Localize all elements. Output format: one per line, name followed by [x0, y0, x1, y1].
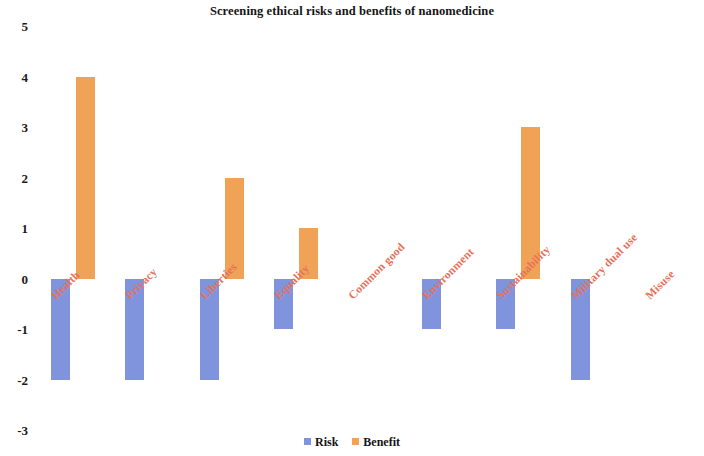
legend-swatch-icon	[352, 438, 359, 445]
chart-title: Screening ethical risks and benefits of …	[0, 4, 704, 19]
y-tick-label: 3	[22, 121, 29, 134]
y-axis: 543210-1-2-3	[0, 26, 34, 430]
plot-area: HealthPrivacyLibertiesEqualityCommon goo…	[36, 26, 704, 430]
legend-item[interactable]: Risk	[304, 435, 338, 450]
legend-label: Risk	[315, 435, 338, 450]
y-tick-label: 0	[22, 272, 29, 285]
y-tick-label: 2	[22, 171, 29, 184]
legend-label: Benefit	[363, 435, 400, 450]
y-tick-label: -1	[17, 323, 28, 336]
bar-benefit	[76, 77, 95, 279]
chart-container: Screening ethical risks and benefits of …	[0, 0, 704, 456]
y-tick-label: 4	[22, 70, 29, 83]
chart-legend: RiskBenefit	[0, 435, 704, 450]
category-label: Military dual use	[569, 230, 640, 301]
category-label: Common good	[346, 240, 407, 301]
legend-swatch-icon	[304, 438, 311, 445]
y-tick-label: 5	[22, 20, 29, 33]
y-tick-label: 1	[22, 222, 29, 235]
category-label: Misuse	[643, 267, 677, 301]
legend-item[interactable]: Benefit	[352, 435, 400, 450]
category-label: Environment	[420, 245, 476, 301]
y-tick-label: -2	[17, 373, 28, 386]
